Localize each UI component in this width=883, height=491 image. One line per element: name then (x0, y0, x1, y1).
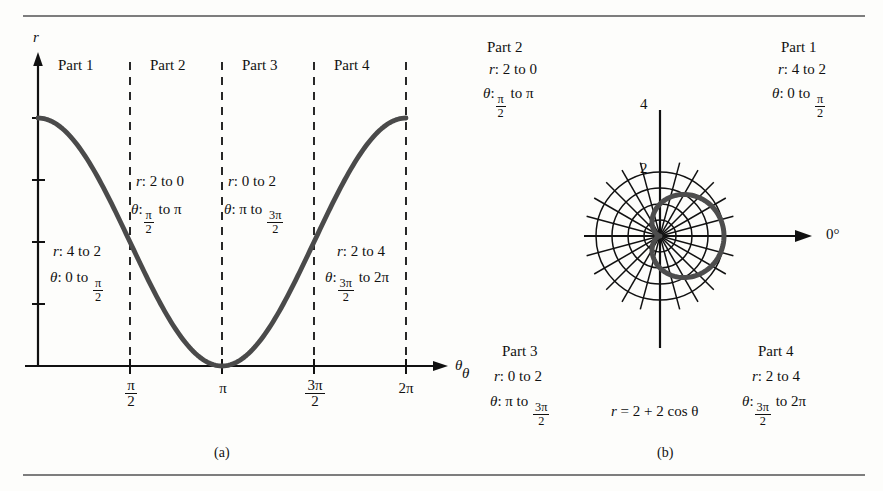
polar-radial-label-2: 2 (640, 161, 648, 176)
r-range-text: : 2 to 0 (495, 61, 537, 77)
fraction-denominator: 2 (758, 415, 768, 428)
polar-radial-label-4: 4 (640, 97, 648, 112)
theta-tail: to π (507, 85, 534, 101)
r-range-text: : 2 to 4 (758, 368, 800, 384)
panel-b-part-4-r-range: r: 2 to 4 (752, 369, 800, 384)
panel-b-part-2-theta-range: θ:π2 to π (483, 86, 534, 119)
panel-b-caption: (b) (657, 446, 673, 460)
panel-b-part-2-r-range: r: 2 to 0 (489, 62, 537, 77)
fraction-3pi-over-2: 3π2 (533, 401, 549, 427)
fraction-denominator: 2 (815, 107, 825, 120)
fraction-denominator: 2 (496, 107, 506, 120)
panel-b-part-3-r-range: r: 0 to 2 (494, 369, 542, 384)
panel-b-equation: r = 2 + 2 cos θ (611, 404, 698, 419)
panel-b-part-2-title: Part 2 (487, 40, 522, 55)
panel-b-part-3-theta-range: θ: π to 3π2 (490, 394, 550, 427)
polar-zero-degree-label: 0° (826, 227, 840, 242)
theta-head: : 0 to (779, 85, 814, 101)
theta-head: : π to (497, 393, 532, 409)
r-range-text: : 4 to 2 (784, 61, 826, 77)
fraction-denominator: 2 (536, 415, 546, 428)
equation-lhs: r (611, 403, 617, 419)
panel-b-part-4-theta-range: θ:3π2 to 2π (742, 394, 806, 427)
panel-b-part-1-r-range: r: 4 to 2 (778, 62, 826, 77)
fraction-pi-over-2: π2 (496, 93, 506, 119)
panel-b-part-1-theta-range: θ: 0 to π2 (772, 86, 826, 119)
r-range-text: : 0 to 2 (500, 368, 542, 384)
fraction-numerator: 3π (533, 401, 549, 415)
fraction-pi-over-2: π2 (815, 93, 825, 119)
figure-root: Part 1 Part 2 Part 3 Part 4 r: 2 to 0 θ:… (0, 0, 883, 491)
fraction-numerator: π (815, 93, 825, 107)
fraction-numerator: π (496, 93, 506, 107)
theta-head: : (490, 85, 494, 101)
theta-tail: to 2π (772, 393, 806, 409)
theta-head: : (749, 393, 753, 409)
fraction-numerator: 3π (755, 401, 771, 415)
panel-b-part-1-title: Part 1 (781, 40, 816, 55)
panel-b-part-4-title: Part 4 (758, 344, 793, 359)
equation-rhs: = 2 + 2 cos θ (621, 403, 699, 419)
cardioid-curve-b (652, 194, 724, 277)
panel-b-part-3-title: Part 3 (502, 344, 537, 359)
panel-b-stray-theta: θ (462, 366, 469, 381)
fraction-3pi-over-2: 3π2 (755, 401, 771, 427)
